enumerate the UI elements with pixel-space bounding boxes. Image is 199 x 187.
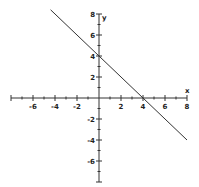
x-tick-label: -2 bbox=[73, 103, 81, 111]
tick-labels: -6-4-224688642-2-4-6 bbox=[29, 11, 189, 166]
x-tick-label: -6 bbox=[29, 103, 37, 111]
y-tick-label: 4 bbox=[90, 53, 95, 61]
x-tick-label: -4 bbox=[51, 103, 59, 111]
x-tick-label: 6 bbox=[163, 103, 168, 111]
x-tick-label: 2 bbox=[119, 103, 124, 111]
x-axis-label: x bbox=[185, 87, 190, 95]
x-tick-label: 8 bbox=[185, 103, 190, 111]
series-line bbox=[51, 10, 187, 140]
x-tick-label: 4 bbox=[141, 103, 146, 111]
y-tick-label: 6 bbox=[90, 32, 95, 40]
y-tick-label: 2 bbox=[90, 74, 95, 82]
y-tick-label: -4 bbox=[87, 137, 95, 145]
y-tick-label: -6 bbox=[87, 158, 95, 166]
y-tick-label: 8 bbox=[90, 11, 95, 19]
line-y-equals-neg-x-plus-4 bbox=[51, 10, 187, 140]
y-tick-label: -2 bbox=[87, 116, 95, 124]
graph-canvas: -6-4-224688642-2-4-6 x y bbox=[0, 0, 199, 187]
y-axis-label: y bbox=[102, 14, 107, 22]
axes bbox=[11, 14, 187, 182]
